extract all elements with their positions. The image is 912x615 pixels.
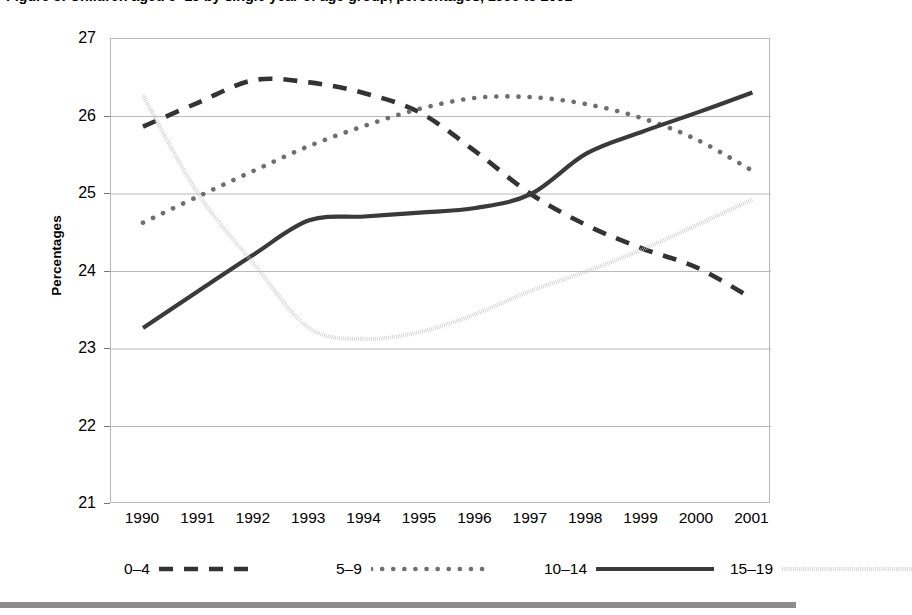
y-axis-tick-mark bbox=[104, 193, 110, 194]
chart-svg bbox=[111, 39, 771, 504]
legend-swatch-fine-dotted bbox=[782, 562, 912, 576]
legend-label: 5–9 bbox=[336, 560, 362, 578]
x-axis-tick-label: 1991 bbox=[167, 510, 227, 526]
y-axis-tick-label: 26 bbox=[52, 108, 96, 124]
x-axis-tick-label: 2000 bbox=[666, 510, 726, 526]
series-line-10-14 bbox=[143, 92, 752, 328]
legend-item-15-19[interactable]: 15–19 bbox=[730, 556, 912, 582]
legend-label: 10–14 bbox=[544, 560, 587, 578]
y-axis-tick-mark bbox=[104, 271, 110, 272]
page-title: Figure 3: Children aged 0–19 by single y… bbox=[0, 0, 796, 5]
x-axis-tick-label: 1993 bbox=[278, 510, 338, 526]
y-axis-tick-mark bbox=[104, 116, 110, 117]
gridlines bbox=[111, 117, 771, 427]
x-axis-tick-label: 1996 bbox=[444, 510, 504, 526]
y-axis-tick-mark bbox=[104, 348, 110, 349]
y-axis-tick-label: 25 bbox=[52, 185, 96, 201]
y-axis-tick-label: 27 bbox=[52, 30, 96, 46]
y-axis-tick-label: 24 bbox=[52, 263, 96, 279]
x-axis-tick-label: 1992 bbox=[223, 510, 283, 526]
plot-area bbox=[110, 38, 770, 503]
x-axis-tick-label: 2001 bbox=[721, 510, 781, 526]
x-axis-tick-label: 1990 bbox=[112, 510, 172, 526]
legend-item-10-14[interactable]: 10–14 bbox=[544, 556, 714, 582]
legend-label: 0–4 bbox=[124, 560, 150, 578]
legend-swatch-dashed bbox=[159, 562, 254, 576]
series-line-5-9 bbox=[143, 96, 752, 222]
series-lines bbox=[143, 79, 752, 339]
legend-item-5-9[interactable]: 5–9 bbox=[336, 556, 486, 582]
y-axis-title: Percentages bbox=[49, 186, 64, 326]
legend-swatch-solid bbox=[596, 562, 714, 576]
x-axis-tick-label: 1997 bbox=[500, 510, 560, 526]
x-axis-tick-label: 1994 bbox=[334, 510, 394, 526]
chart-legend: 0–45–910–1415–19 bbox=[110, 556, 770, 582]
legend-item-0-4[interactable]: 0–4 bbox=[124, 556, 254, 582]
y-axis-tick-label: 23 bbox=[52, 340, 96, 356]
y-axis-tick-mark bbox=[104, 426, 110, 427]
legend-label: 15–19 bbox=[730, 560, 773, 578]
x-axis-tick-label: 1998 bbox=[555, 510, 615, 526]
figure-title-strip: Figure 3: Children aged 0–19 by single y… bbox=[0, 0, 796, 9]
legend-swatch-dotted bbox=[371, 562, 486, 576]
x-axis-tick-label: 1999 bbox=[611, 510, 671, 526]
x-axis-tick-label: 1995 bbox=[389, 510, 449, 526]
bottom-divider bbox=[0, 602, 796, 608]
y-axis-tick-mark bbox=[104, 503, 110, 504]
y-axis-tick-label: 22 bbox=[52, 418, 96, 434]
y-axis-tick-label: 21 bbox=[52, 495, 96, 511]
